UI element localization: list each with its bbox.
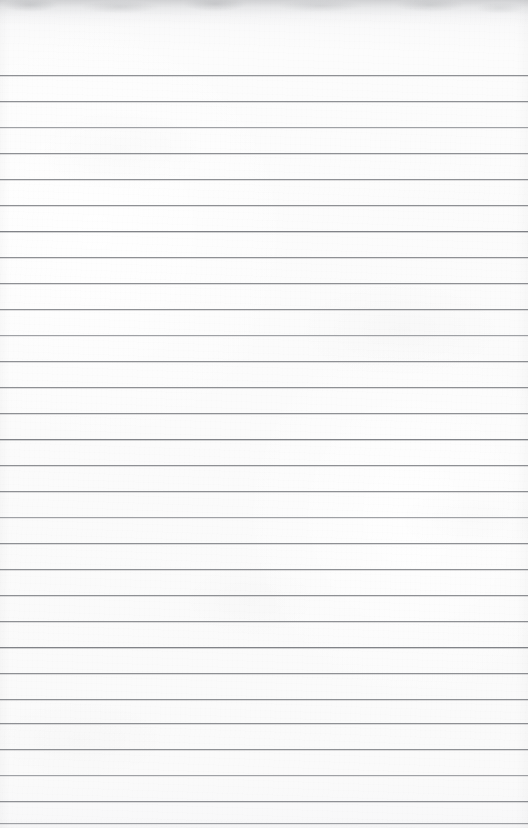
writing-area <box>0 0 528 828</box>
scanned-page <box>0 0 528 828</box>
